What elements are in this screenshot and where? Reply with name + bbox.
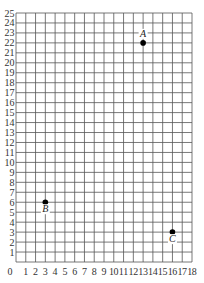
x-tick-label: 16 — [168, 266, 178, 277]
y-tick-label: 6 — [10, 197, 15, 208]
y-tick-label: 16 — [5, 97, 15, 108]
x-tick-label: 15 — [158, 266, 168, 277]
y-tick-label: 24 — [5, 17, 15, 28]
y-tick-label: 15 — [5, 107, 15, 118]
y-tick-label: 1 — [10, 247, 15, 258]
x-tick-label: 4 — [53, 266, 58, 277]
y-tick-label: 19 — [5, 67, 15, 78]
x-tick-label: 7 — [82, 266, 87, 277]
x-tick-label: 12 — [129, 266, 139, 277]
data-points: ABC — [41, 28, 177, 244]
x-tick-label: 2 — [33, 266, 38, 277]
point-label: B — [42, 203, 48, 214]
y-tick-label: 2 — [10, 237, 15, 248]
y-tick-label: 12 — [5, 137, 15, 148]
x-tick-label: 13 — [138, 266, 148, 277]
x-tick-label: 1 — [23, 266, 28, 277]
y-tick-label: 22 — [5, 37, 15, 48]
x-tick-label: 11 — [119, 266, 129, 277]
grid-lines — [16, 13, 192, 262]
y-tick-label: 7 — [10, 187, 15, 198]
x-tick-label: 17 — [177, 266, 187, 277]
x-tick-label: 9 — [102, 266, 107, 277]
x-tick-label: 5 — [62, 266, 67, 277]
x-tick-label: 3 — [43, 266, 48, 277]
x-tick-label: 10 — [109, 266, 119, 277]
x-tick-label: 8 — [92, 266, 97, 277]
x-axis-ticks: 0123456789101112131415161718 — [8, 266, 197, 277]
y-tick-label: 5 — [10, 207, 15, 218]
x-tick-label: 14 — [148, 266, 158, 277]
x-tick-label: 0 — [8, 266, 13, 277]
y-tick-label: 8 — [10, 177, 15, 188]
y-tick-label: 9 — [10, 167, 15, 178]
y-tick-label: 23 — [5, 27, 15, 38]
y-tick-label: 14 — [5, 117, 15, 128]
data-point-c: C — [168, 229, 177, 244]
y-tick-label: 17 — [5, 87, 15, 98]
y-axis-ticks: 1234567891011121314151617181920212223242… — [5, 8, 15, 258]
point-label: C — [169, 233, 176, 244]
data-point-b: B — [41, 199, 50, 214]
y-tick-label: 13 — [5, 127, 15, 138]
y-tick-label: 10 — [5, 157, 15, 168]
y-tick-label: 25 — [5, 8, 15, 19]
y-tick-label: 4 — [10, 217, 15, 228]
coordinate-grid-chart: 1234567891011121314151617181920212223242… — [0, 0, 204, 283]
point-label: A — [139, 28, 147, 39]
y-tick-label: 11 — [5, 147, 15, 158]
point-marker — [140, 40, 146, 46]
y-tick-label: 3 — [10, 227, 15, 238]
x-tick-label: 18 — [187, 266, 197, 277]
y-tick-label: 21 — [5, 47, 15, 58]
y-tick-label: 20 — [5, 57, 15, 68]
x-tick-label: 6 — [72, 266, 77, 277]
y-tick-label: 18 — [5, 77, 15, 88]
